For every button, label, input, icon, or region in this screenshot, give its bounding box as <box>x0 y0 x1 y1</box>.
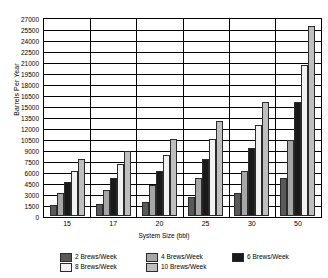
x-tick-label: 25 <box>183 220 229 227</box>
bar-groups <box>45 20 320 216</box>
y-tick-label: 4500 <box>25 181 39 188</box>
y-tick-label: 3000 <box>25 192 39 199</box>
legend-label: 4 Brews/Week <box>161 253 203 261</box>
x-tick-label: 30 <box>229 220 275 227</box>
bar-group <box>274 20 320 216</box>
x-tick-label: 15 <box>44 220 90 227</box>
bar <box>57 193 64 216</box>
y-tick-label: 13500 <box>21 115 39 122</box>
bar <box>301 65 308 216</box>
bar <box>188 197 195 216</box>
y-tick-label: 25500 <box>21 27 39 34</box>
legend-item[interactable]: 6 Brews/Week <box>232 252 318 262</box>
legend-label: 2 Brews/Week <box>75 253 117 261</box>
y-tick-label: 21000 <box>21 60 39 67</box>
bar <box>170 139 177 216</box>
y-tick-label: 19500 <box>21 71 39 78</box>
y-tick-label: 16500 <box>21 93 39 100</box>
y-tick-label: 0 <box>35 214 39 221</box>
bar <box>262 102 269 216</box>
y-tick-label: 6000 <box>25 170 39 177</box>
x-tick-label: 20 <box>136 220 182 227</box>
bar <box>64 182 71 216</box>
plot-frame <box>43 18 322 218</box>
bar <box>142 202 149 216</box>
legend-label: 8 Brews/Week <box>75 263 117 271</box>
legend-item[interactable]: 10 Brews/Week <box>146 262 232 272</box>
bar <box>248 148 255 216</box>
bar <box>124 151 131 216</box>
bar <box>202 159 209 216</box>
y-tick-label: 10500 <box>21 137 39 144</box>
bar-group <box>182 20 228 216</box>
bar-group <box>137 20 183 216</box>
legend-item[interactable]: 2 Brews/Week <box>60 252 146 262</box>
bar <box>149 185 156 216</box>
y-tick-label: 12000 <box>21 126 39 133</box>
plot-area <box>43 18 322 218</box>
bar <box>308 26 315 216</box>
bar-group <box>228 20 274 216</box>
bar <box>255 125 262 216</box>
legend-item[interactable]: 8 Brews/Week <box>60 262 146 272</box>
bar <box>156 171 163 216</box>
bar-group <box>91 20 137 216</box>
y-tick-label: 22500 <box>21 49 39 56</box>
legend-swatch-icon <box>146 253 158 262</box>
bar <box>71 171 78 216</box>
legend-swatch-icon <box>146 263 158 272</box>
y-tick-label: 15000 <box>21 104 39 111</box>
bar <box>294 102 301 216</box>
y-tick-label: 9000 <box>25 148 39 155</box>
bar <box>117 164 124 216</box>
bar <box>96 204 103 216</box>
y-tick-label: 1500 <box>25 203 39 210</box>
bar <box>216 121 223 216</box>
legend-swatch-icon <box>60 253 72 262</box>
bar <box>280 178 287 216</box>
y-axis-tick-labels: 2700025500240002250021000195001800016500… <box>0 18 41 218</box>
legend-swatch-icon <box>232 253 244 262</box>
legend: 2 Brews/Week4 Brews/Week6 Brews/Week8 Br… <box>60 252 310 272</box>
legend-swatch-icon <box>60 263 72 272</box>
legend-label: 6 Brews/Week <box>247 253 289 261</box>
bar <box>209 139 216 216</box>
bar <box>234 193 241 216</box>
y-tick-label: 24000 <box>21 38 39 45</box>
bar <box>110 178 117 217</box>
bar <box>50 205 57 216</box>
bar <box>103 190 110 216</box>
x-tick-label: 50 <box>275 220 321 227</box>
bar-chart: Barrels Per Year 27000255002400022500210… <box>0 0 328 278</box>
bar <box>287 140 294 216</box>
bar <box>241 171 248 216</box>
bar <box>195 178 202 216</box>
legend-label: 10 Brews/Week <box>161 263 206 271</box>
y-tick-label: 27000 <box>21 16 39 23</box>
legend-item[interactable]: 4 Brews/Week <box>146 252 232 262</box>
x-tick-label: 17 <box>90 220 136 227</box>
bar-group <box>45 20 91 216</box>
y-tick-label: 18000 <box>21 82 39 89</box>
bar <box>163 155 170 216</box>
x-axis-title: System Size (bbl) <box>0 232 328 239</box>
x-axis-tick-labels: 151720253050 <box>44 220 321 227</box>
y-tick-label: 7500 <box>25 159 39 166</box>
bar <box>78 159 85 216</box>
